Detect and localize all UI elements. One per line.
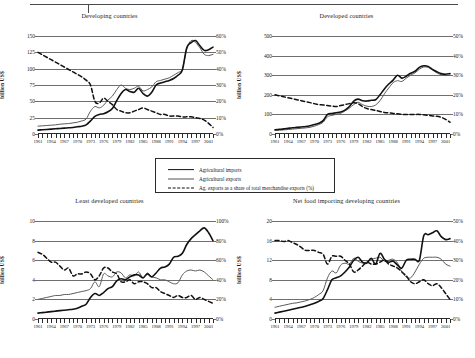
x-axis-tick-mark: [200, 319, 201, 323]
x-axis-tick-mark: [411, 134, 412, 138]
x-axis-tick-mark: [363, 319, 364, 323]
x-axis-tick-mark: [433, 319, 434, 323]
x-axis-tick-label: 1976: [99, 139, 108, 144]
plot-area-net-food-importing-developing-countries: 0481216200%10%20%30%40%50%19611964196719…: [275, 221, 450, 319]
x-axis-tick-label: 1985: [138, 324, 147, 329]
x-axis-tick-mark: [117, 134, 118, 138]
x-axis-tick-mark: [121, 134, 122, 138]
x-axis-tick-label: 1994: [415, 139, 424, 144]
x-axis-tick-mark: [152, 134, 153, 138]
y-axis-tick-label: 2: [32, 296, 35, 302]
y-axis-tick-label: 0: [269, 131, 272, 137]
series-layer: [275, 36, 450, 134]
chart-title-least-developed-countries: Least developed countries: [6, 197, 213, 204]
y2-axis-tick-label: 0%: [453, 316, 460, 322]
x-axis-tick-mark: [301, 319, 302, 323]
y2-axis-tick-label: 50%: [453, 33, 463, 39]
x-axis-tick-mark: [143, 319, 144, 323]
y2-axis-tick-label: 0%: [453, 131, 460, 137]
x-axis-tick-mark: [99, 319, 100, 323]
y-axis-tick-label: 0: [269, 316, 272, 322]
y2-axis-tick-label: 10%: [216, 115, 226, 121]
x-axis-tick-mark: [38, 134, 39, 138]
x-axis-tick-label: 1994: [415, 324, 424, 329]
x-axis-tick-mark: [284, 134, 285, 138]
x-axis-tick-mark: [213, 319, 214, 323]
x-axis-tick-label: 1964: [284, 324, 293, 329]
x-axis-tick-mark: [398, 134, 399, 138]
x-axis-tick-mark: [91, 319, 92, 323]
x-axis-tick-mark: [349, 319, 350, 323]
x-axis-tick-label: 1997: [191, 139, 200, 144]
x-axis-tick-label: 1991: [402, 324, 411, 329]
x-axis-tick-label: 1964: [47, 324, 56, 329]
x-axis-tick-mark: [424, 319, 425, 323]
y-axis-tick-label: 8: [32, 238, 35, 244]
chart-title-net-food-importing-developing-countries: Net food importing developing countries: [243, 197, 450, 204]
series-layer: [38, 36, 213, 134]
x-axis-tick-mark: [424, 134, 425, 138]
x-axis-tick-mark: [182, 134, 183, 138]
x-axis-tick-mark: [446, 134, 447, 138]
y-axis-tick-label: 10: [30, 218, 35, 224]
x-axis-tick-mark: [47, 319, 48, 323]
x-axis-tick-mark: [64, 134, 65, 138]
x-axis-tick-mark: [51, 319, 52, 323]
x-axis-tick-mark: [187, 319, 188, 323]
x-axis-tick-mark: [306, 134, 307, 138]
y2-axis-tick-label: 40%: [453, 238, 463, 244]
x-axis-tick-mark: [297, 319, 298, 323]
x-axis-tick-mark: [384, 319, 385, 323]
y2-axis-tick-label: 100%: [216, 218, 229, 224]
y2-axis-tick-label: 40%: [216, 66, 226, 72]
x-axis-tick-mark: [104, 134, 105, 138]
x-axis-tick-label: 1973: [86, 139, 95, 144]
x-axis-tick-label: 1964: [284, 139, 293, 144]
x-axis-tick-mark: [152, 319, 153, 323]
series-line-share: [275, 95, 450, 122]
y-axis-tick-label: 50: [30, 98, 35, 104]
x-axis-tick-label: 1985: [375, 324, 384, 329]
x-axis-tick-mark: [169, 134, 170, 138]
x-axis-tick-mark: [156, 319, 157, 323]
x-axis-tick-mark: [174, 134, 175, 138]
x-axis-tick-mark: [69, 134, 70, 138]
x-axis-tick-label: 1994: [178, 139, 187, 144]
x-axis-tick-mark: [60, 134, 61, 138]
x-axis-tick-mark: [139, 319, 140, 323]
x-axis-tick-mark: [332, 134, 333, 138]
x-axis-tick-mark: [279, 319, 280, 323]
chart-panel-developed-countries: Developed countriesbillion US$0100200300…: [243, 12, 475, 164]
y2-axis-tick-label: 20%: [216, 98, 226, 104]
x-axis-tick-label: 1979: [112, 139, 121, 144]
x-axis-tick-mark: [389, 319, 390, 323]
x-axis-tick-mark: [328, 319, 329, 323]
x-axis-tick-mark: [99, 134, 100, 138]
x-axis-tick-mark: [60, 319, 61, 323]
x-axis-tick-mark: [376, 134, 377, 138]
x-axis-tick-mark: [86, 319, 87, 323]
x-axis-tick-mark: [42, 319, 43, 323]
x-axis-tick-mark: [147, 319, 148, 323]
y2-axis-tick-label: 30%: [453, 72, 463, 78]
y2-axis-tick-label: 20%: [216, 296, 226, 302]
x-axis-tick-mark: [95, 319, 96, 323]
y-axis-tick-label: 100: [27, 66, 35, 72]
x-axis-tick-mark: [191, 319, 192, 323]
x-axis-tick-mark: [51, 134, 52, 138]
x-axis-tick-mark: [64, 319, 65, 323]
x-axis-tick-label: 1976: [336, 324, 345, 329]
y-axis-tick-label: 8: [269, 277, 272, 283]
y2-axis-tick-label: 40%: [216, 277, 226, 283]
y2-axis-tick-label: 0%: [216, 316, 223, 322]
x-axis-tick-label: 1967: [297, 324, 306, 329]
x-axis-tick-label: 2001: [204, 324, 213, 329]
x-axis-tick-mark: [275, 134, 276, 138]
x-axis-tick-mark: [196, 134, 197, 138]
x-axis-tick-mark: [446, 319, 447, 323]
y2-axis-tick-label: 10%: [453, 111, 463, 117]
series-line-exports: [275, 257, 450, 307]
legend-swatch-imports-icon: [168, 166, 194, 173]
x-axis-tick-mark: [380, 134, 381, 138]
x-axis-tick-label: 1991: [402, 139, 411, 144]
